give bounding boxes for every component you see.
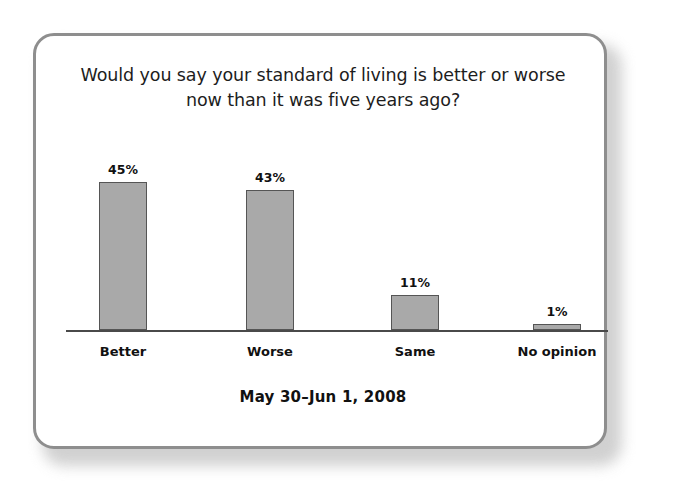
chart-date-range: May 30–Jun 1, 2008 — [36, 388, 610, 406]
bar-label-worse: Worse — [204, 344, 336, 359]
poll-chart-card: Would you say your standard of living is… — [33, 33, 607, 449]
bar-rect-worse[interactable] — [246, 190, 294, 330]
bar-label-better: Better — [57, 344, 189, 359]
bar-value-better: 45% — [73, 162, 173, 177]
bar-rect-better[interactable] — [99, 182, 147, 330]
bar-value-same: 11% — [365, 275, 465, 290]
bar-rect-no-opinion[interactable] — [533, 324, 581, 330]
bar-value-worse: 43% — [220, 170, 320, 185]
bar-rect-same[interactable] — [391, 295, 439, 330]
bar-label-same: Same — [349, 344, 481, 359]
bar-label-no-opinion: No opinion — [491, 344, 623, 359]
bar-value-no-opinion: 1% — [507, 304, 607, 319]
x-axis-baseline — [66, 330, 608, 332]
